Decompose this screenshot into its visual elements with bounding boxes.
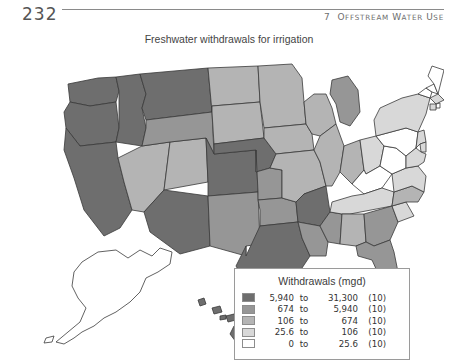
legend-high: 5,940	[314, 304, 358, 314]
state-DE	[420, 142, 426, 152]
legend-row: 0 to 25.6 (10)	[242, 338, 402, 350]
state-AK-isl	[44, 336, 54, 343]
legend-swatch	[242, 328, 255, 337]
legend-count: (10)	[358, 316, 386, 326]
legend-high: 674	[314, 316, 358, 326]
state-AL	[340, 214, 366, 246]
legend-high: 106	[314, 327, 358, 337]
legend-row: 674 to 5,940 (10)	[242, 304, 402, 316]
page-header: 232 7OFFSTREAM WATER USE	[0, 0, 458, 26]
state-ID	[116, 74, 146, 146]
state-RI	[436, 103, 440, 108]
state-CA	[64, 128, 132, 236]
legend-row: 106 to 674 (10)	[242, 315, 402, 327]
legend-high: 25.6	[314, 339, 358, 349]
legend-count: (10)	[358, 339, 386, 349]
state-SD	[212, 102, 264, 144]
state-GA	[364, 206, 398, 246]
state-AK	[56, 248, 172, 344]
legend-count: (10)	[358, 327, 386, 337]
state-UT	[164, 138, 208, 190]
legend-low: 106	[260, 316, 294, 326]
running-head: 7OFFSTREAM WATER USE	[324, 12, 444, 22]
running-head-title: OFFSTREAM WATER USE	[337, 13, 444, 22]
state-HI-kauai	[198, 298, 206, 306]
page-number: 232	[22, 4, 57, 24]
legend-swatch	[242, 316, 255, 325]
legend-row: 25.6 to 106 (10)	[242, 327, 402, 339]
legend-title: Withdrawals (mgd)	[242, 275, 402, 287]
legend-count: (10)	[358, 293, 386, 303]
state-OK	[258, 198, 298, 226]
map-legend: Withdrawals (mgd) 5,940 to 31,300 (10) 6…	[234, 268, 410, 360]
legend-to: to	[294, 293, 314, 303]
legend-swatch	[242, 293, 255, 302]
state-HI-oahu	[212, 306, 222, 314]
legend-high: 31,300	[314, 293, 358, 303]
legend-to: to	[294, 339, 314, 349]
running-head-chapter: 7	[324, 12, 330, 22]
legend-count: (10)	[358, 304, 386, 314]
figure: Freshwater withdrawals for irrigation	[0, 26, 458, 364]
legend-swatch	[242, 305, 255, 314]
legend-low: 0	[260, 339, 294, 349]
state-CT	[430, 104, 436, 110]
legend-to: to	[294, 316, 314, 326]
state-WA	[68, 77, 119, 106]
legend-to: to	[294, 327, 314, 337]
legend-low: 5,940	[260, 293, 294, 303]
figure-title: Freshwater withdrawals for irrigation	[0, 33, 458, 45]
legend-low: 25.6	[260, 327, 294, 337]
state-MT	[140, 68, 212, 120]
header-rule	[62, 9, 444, 10]
legend-to: to	[294, 304, 314, 314]
legend-row: 5,940 to 31,300 (10)	[242, 292, 402, 304]
legend-low: 674	[260, 304, 294, 314]
state-HI-molokai	[220, 315, 226, 320]
state-MA	[430, 94, 444, 104]
legend-swatch	[242, 339, 255, 348]
state-MN	[258, 64, 306, 128]
